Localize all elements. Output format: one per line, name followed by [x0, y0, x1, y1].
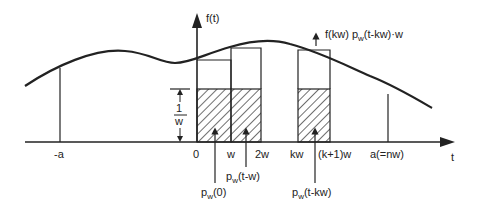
- weighted-bar-0: [197, 60, 231, 89]
- label-pw-t-minus-kw: pw(t-kw): [292, 186, 331, 201]
- height-denominator: w: [174, 115, 183, 127]
- label-weighted-pulse: f(kw) pw(t-kw)·w: [325, 28, 403, 43]
- height-numerator: 1: [176, 102, 182, 114]
- pulse-approximation-diagram: f(t) t -a 0 w 2w kw (k+1)w a(=nw) 1 w pw…: [0, 0, 477, 213]
- tick-a-eq-nw: a(=nw): [370, 148, 404, 160]
- tick-w: w: [226, 148, 235, 160]
- pulse-pk: [298, 89, 330, 142]
- t-axis-arrowhead-icon: [440, 137, 455, 147]
- t-axis-label: t: [451, 151, 454, 163]
- weighted-bar-1: [231, 48, 261, 89]
- pulse-p0: [197, 89, 231, 142]
- tick-zero: 0: [193, 148, 199, 160]
- f-axis-label: f(t): [206, 12, 219, 24]
- tick-two-w: 2w: [255, 148, 269, 160]
- f-axis-arrowhead-icon: [192, 13, 202, 28]
- tick-kw: kw: [290, 148, 304, 160]
- label-pw-0: pw(0): [201, 186, 226, 201]
- label-pw-t-minus-w: pw(t-w): [226, 170, 260, 185]
- tick-neg-a: -a: [54, 148, 65, 160]
- tick-k-plus-1-w: (k+1)w: [318, 148, 351, 160]
